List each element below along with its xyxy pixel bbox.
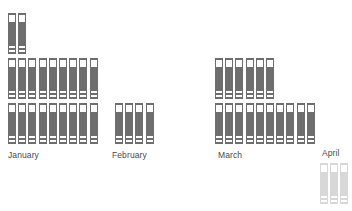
document-bar-icon xyxy=(69,58,77,99)
icon-row xyxy=(215,103,315,144)
document-bar-icon xyxy=(28,58,36,99)
document-bar-icon xyxy=(79,58,87,99)
document-bar-icon xyxy=(215,103,223,144)
document-bar-icon xyxy=(146,103,154,144)
document-bar-icon xyxy=(69,103,77,144)
document-bar-icon xyxy=(286,103,294,144)
document-bar-icon xyxy=(90,58,98,99)
document-bar-icon xyxy=(307,103,315,144)
document-bar-icon xyxy=(266,58,274,99)
document-bar-icon xyxy=(79,103,87,144)
icon-rows xyxy=(115,103,154,144)
document-bar-icon xyxy=(90,103,98,144)
document-bar-icon xyxy=(18,58,26,99)
icon-row xyxy=(115,103,154,144)
document-bar-icon xyxy=(28,103,36,144)
document-bar-icon xyxy=(235,58,243,99)
document-bar-icon xyxy=(8,58,16,99)
document-bar-icon xyxy=(39,103,47,144)
document-bar-icon xyxy=(59,103,67,144)
document-bar-icon xyxy=(276,103,284,144)
document-bar-icon xyxy=(125,103,133,144)
icon-row xyxy=(320,163,348,204)
group-label-february: February xyxy=(112,150,147,161)
group-label-march: March xyxy=(218,150,242,161)
document-bar-icon xyxy=(8,103,16,144)
document-bar-icon xyxy=(256,58,264,99)
document-bar-icon xyxy=(59,58,67,99)
document-bar-icon xyxy=(49,103,57,144)
pictogram-group-april xyxy=(320,163,348,204)
icon-row xyxy=(8,58,98,99)
icon-row xyxy=(8,103,98,144)
document-bar-icon xyxy=(8,13,16,54)
document-bar-icon xyxy=(18,103,26,144)
group-label-january: January xyxy=(8,150,39,161)
document-bar-icon xyxy=(297,103,305,144)
document-bar-icon xyxy=(246,58,254,99)
document-bar-icon xyxy=(246,103,254,144)
pictogram-group-february xyxy=(115,103,154,144)
pictogram-group-january xyxy=(8,13,98,144)
pictogram-chart: JanuaryFebruaryMarchApril xyxy=(0,0,352,211)
document-bar-icon xyxy=(330,163,338,204)
icon-row xyxy=(8,13,26,54)
icon-row xyxy=(215,58,274,99)
document-bar-icon xyxy=(225,58,233,99)
document-bar-icon xyxy=(340,163,348,204)
icon-rows xyxy=(320,163,348,204)
document-bar-icon xyxy=(135,103,143,144)
document-bar-icon xyxy=(39,58,47,99)
document-bar-icon xyxy=(266,103,274,144)
document-bar-icon xyxy=(18,13,26,54)
document-bar-icon xyxy=(235,103,243,144)
document-bar-icon xyxy=(215,58,223,99)
document-bar-icon xyxy=(225,103,233,144)
group-label-april: April xyxy=(322,148,340,159)
document-bar-icon xyxy=(256,103,264,144)
pictogram-group-march xyxy=(215,58,315,144)
document-bar-icon xyxy=(115,103,123,144)
document-bar-icon xyxy=(49,58,57,99)
document-bar-icon xyxy=(320,163,328,204)
icon-rows xyxy=(8,13,98,144)
icon-rows xyxy=(215,58,315,144)
